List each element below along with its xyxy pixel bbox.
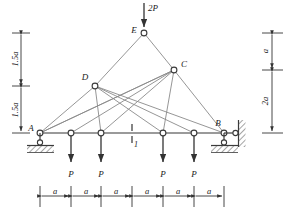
member-D-n2 (95, 86, 101, 133)
dimension-label-left-1: 1.5a (10, 52, 20, 67)
joint-E (141, 30, 147, 36)
dimension-label-bottom-3: a (114, 186, 118, 196)
section-label-1: 1 (134, 140, 138, 149)
dimension-label-right-2: 2a (260, 97, 270, 106)
support-A (27, 133, 54, 153)
member-C-n2 (101, 70, 174, 133)
load-label-P-4: P (190, 169, 197, 179)
joint-n1 (68, 130, 74, 136)
member-E-C (144, 33, 174, 70)
load-label-P-1: P (67, 169, 74, 179)
load-label-2P: 2P (148, 3, 159, 13)
node-label-C: C (181, 59, 188, 69)
dimension-label-bottom-5: a (176, 186, 180, 196)
joint-D (92, 83, 98, 89)
load-label-P-2: P (97, 169, 104, 179)
joint-n4 (191, 130, 197, 136)
load-label-P-3: P (159, 169, 166, 179)
member-D-n3 (95, 86, 163, 133)
truss-members (40, 33, 224, 133)
member-D-B (95, 86, 224, 133)
dimension-label-bottom-6: a (207, 186, 211, 196)
figure-canvas: A B C D E 2P P P P P 1 1.5a 1.5a a 2a a … (0, 0, 294, 220)
member-D-E (95, 33, 144, 86)
member-A-D (40, 86, 95, 133)
node-label-B: B (215, 118, 221, 128)
joint-n3 (160, 130, 166, 136)
node-label-E: E (130, 25, 137, 35)
member-A-n-upper (40, 70, 174, 133)
dimension-right (262, 33, 283, 133)
node-label-D: D (81, 72, 89, 82)
member-C-n3 (163, 70, 174, 133)
node-label-A: A (27, 123, 34, 133)
dimension-label-left-2: 1.5a (10, 103, 20, 118)
joint-n2 (98, 130, 104, 136)
dimension-label-bottom-2: a (84, 186, 88, 196)
joint-C (171, 67, 177, 73)
dimension-label-right-1: a (260, 49, 270, 53)
dimension-bottom (40, 186, 224, 207)
dimension-label-bottom-4: a (145, 186, 149, 196)
dimension-label-bottom-1: a (53, 186, 57, 196)
